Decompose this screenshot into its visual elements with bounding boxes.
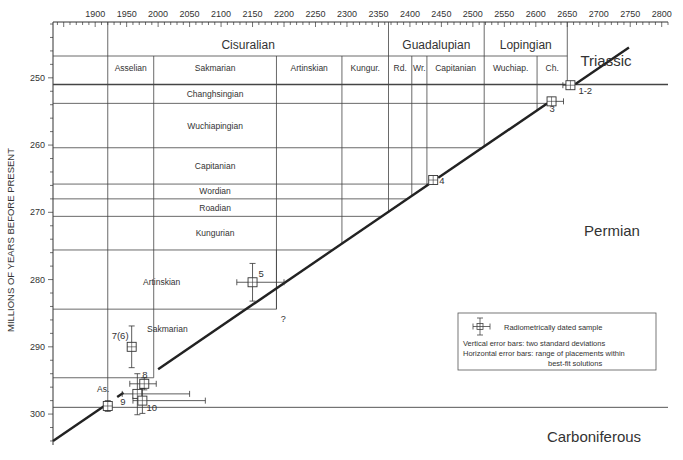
sample-label: 8	[142, 369, 147, 380]
period-label-carboniferous: Carboniferous	[547, 428, 641, 445]
x-tick-label: 2450	[431, 9, 451, 19]
stage-header-label: Rd.	[394, 63, 407, 73]
sample-label: 5	[259, 268, 264, 279]
x-tick-label: 2400	[400, 9, 420, 19]
x-tick-label: 2050	[180, 9, 200, 19]
legend-line-3: best-fit solutions	[548, 359, 602, 368]
stage-header-label: Artinskian	[291, 63, 329, 73]
x-tick-label: 2100	[211, 9, 231, 19]
sample-point	[563, 81, 575, 90]
legend-line-1: Vertical error bars: two standard deviat…	[463, 339, 605, 348]
legend-line-2: Horizontal error bars: range of placemen…	[463, 349, 625, 358]
x-tick-label: 2200	[274, 9, 294, 19]
axes: 1900195020002050210021502200225023002350…	[30, 9, 672, 445]
sample-label: 4	[439, 175, 444, 186]
sample-label: 7(6)	[112, 330, 129, 341]
stratigraphic-correlation-chart: 1900195020002050210021502200225023002350…	[0, 0, 683, 460]
stage-header-label: Capitanian	[435, 63, 476, 73]
sample-point	[429, 176, 438, 185]
stage-header-label: Asselian	[115, 63, 147, 73]
legend: Radiometrically dated sample Vertical er…	[458, 313, 656, 370]
stage-header-label: Wuchiap.	[493, 63, 528, 73]
y-tick-label: 270	[30, 207, 45, 217]
epoch-label: Cisuralian	[221, 38, 274, 52]
stage-header-label: Kungur.	[351, 63, 380, 73]
y-tick-label: 300	[30, 409, 45, 419]
y-tick-label: 260	[30, 140, 45, 150]
stage-row-label: As.	[97, 384, 109, 394]
y-tick-label: 290	[30, 342, 45, 352]
x-tick-label: 2650	[557, 9, 577, 19]
x-tick-label: 2000	[148, 9, 168, 19]
epoch-label: Lopingian	[500, 38, 552, 52]
y-tick-label: 250	[30, 73, 45, 83]
best-fit-line	[438, 103, 547, 177]
sample-label: 9	[120, 396, 125, 407]
sample-label: 10	[146, 402, 157, 413]
x-tick-label: 2550	[494, 9, 514, 19]
stage-header-label: Sakmarian	[195, 63, 236, 73]
y-tick-label: 280	[30, 275, 45, 285]
epoch-label: Guadalupian	[402, 38, 470, 52]
stage-row-label: Wordian	[199, 186, 231, 196]
sample-point	[103, 401, 112, 412]
stage-row-label: Sakmarian	[147, 324, 188, 334]
stage-row-label: Changhsingian	[187, 89, 244, 99]
period-label-permian: Permian	[584, 222, 640, 239]
stage-header-label: Wr.	[413, 63, 426, 73]
sample-label: 1-2	[578, 85, 592, 96]
period-label-triassic: Triassic	[580, 52, 632, 69]
y-axis-label: MILLIONS OF YEARS BEFORE PRESENT	[5, 148, 16, 332]
x-tick-label: 2150	[243, 9, 263, 19]
x-tick-label: 1900	[85, 9, 105, 19]
x-tick-label: 2250	[305, 9, 325, 19]
uncertainty-question-mark: ?	[281, 314, 286, 324]
x-tick-label: 1950	[117, 9, 137, 19]
stage-row-label: Artinskian	[143, 277, 181, 287]
legend-symbol-label: Radiometrically dated sample	[504, 323, 602, 332]
x-tick-label: 2350	[368, 9, 388, 19]
x-tick-label: 2750	[620, 9, 640, 19]
x-tick-label: 2700	[589, 9, 609, 19]
stage-header-label: Ch.	[546, 63, 559, 73]
stage-row-label: Capitanian	[195, 161, 236, 171]
x-tick-label: 2500	[463, 9, 483, 19]
stage-row-label: Kungurian	[196, 228, 235, 238]
x-tick-label: 2300	[337, 9, 357, 19]
sample-label: 3	[550, 103, 555, 114]
x-tick-label: 2600	[526, 9, 546, 19]
sample-point	[133, 389, 205, 414]
x-tick-label: 2800	[652, 9, 672, 19]
stage-row-label: Wuchiapingian	[187, 121, 243, 131]
best-fit-line	[53, 406, 105, 441]
stage-row-label: Roadian	[199, 203, 231, 213]
